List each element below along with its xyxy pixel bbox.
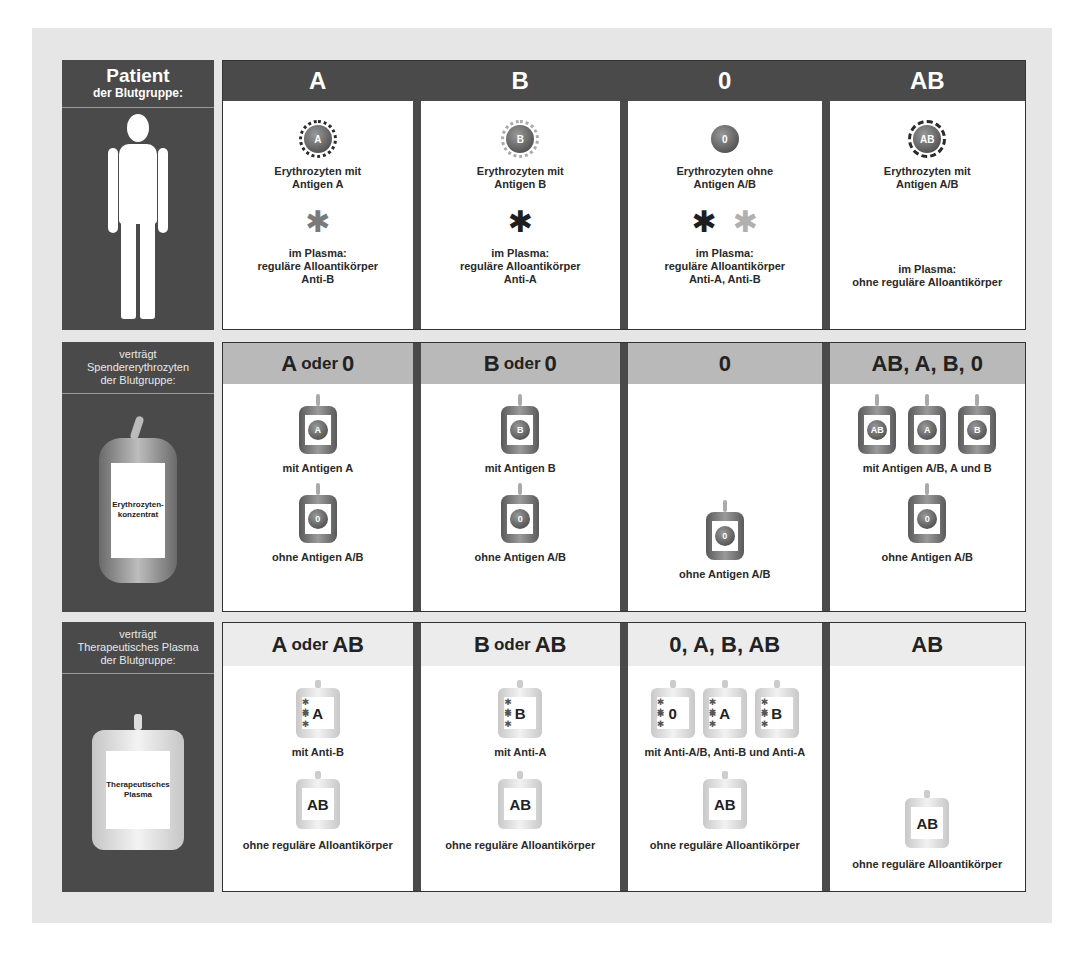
compatible-groups-header: AB, A, B, 0 (830, 343, 1026, 384)
antibody-anti-a-icon: ✱ (692, 207, 717, 237)
plasma-col-a: AoderAB A mit Anti-B AB ohne reguläre Al… (223, 623, 413, 891)
bag-label: ohne reguläre Alloantikörper (650, 839, 800, 852)
rbc-col-b: Boder0 B mit Antigen B 0 ohne Antigen A/… (413, 343, 620, 611)
plasma-col-ab: AB AB ohne reguläre Alloantikörper (822, 623, 1026, 891)
plasma-bag-a-icon: A (703, 688, 747, 738)
plasma-bag-0-icon: 0 (651, 688, 695, 738)
side-panel-plasma-header: verträgt Therapeutisches Plasma der Blut… (62, 622, 214, 674)
rbc-col-0: 0 0 ohne Antigen A/B (620, 343, 822, 611)
side-panel-patient-header: Patient der Blutgruppe: (62, 60, 214, 108)
compatible-groups-header: Aoder0 (223, 343, 413, 384)
side-panel-plasma: verträgt Therapeutisches Plasma der Blut… (62, 622, 214, 892)
plasma-compatibility-row: AoderAB A mit Anti-B AB ohne reguläre Al… (222, 622, 1026, 892)
plasma-bag-ab-icon: AB (498, 779, 542, 829)
cell-description: Erythrozyten mitAntigen A (274, 165, 361, 191)
rbc-bag-a-icon: A (908, 406, 946, 454)
bag-label-2: konzentrat (118, 510, 158, 519)
plasma-description: im Plasma:reguläre AlloantikörperAnti-B (257, 247, 378, 286)
plasma-col-b: BoderAB B mit Anti-A AB ohne reguläre Al… (413, 623, 620, 891)
patient-row: A A Erythrozyten mitAntigen A ✱ im Plasm… (222, 60, 1026, 330)
erythrocyte-concentrate-bag-icon: Erythrozyten-konzentrat (99, 438, 177, 583)
plasma-col-0: 0, A, B, AB 0 A B mit Anti-A/B, Anti-B u… (620, 623, 822, 891)
cell-description: Erythrozyten mitAntigen A/B (884, 165, 971, 191)
group-header: AB (830, 61, 1026, 101)
plasma-bag-ab-icon: AB (296, 779, 340, 829)
bag-label: mit Antigen A/B, A und B (863, 462, 992, 475)
side-panel-rbc-header: verträgt Spendererythrozyten der Blutgru… (62, 342, 214, 394)
compatible-groups-header: Boder0 (421, 343, 620, 384)
person-silhouette-icon (103, 114, 173, 324)
plasma-bag-ab-icon: AB (905, 798, 949, 848)
plasma-bag-ab-icon: AB (703, 779, 747, 829)
compatible-groups-header: 0 (628, 343, 822, 384)
antibody-anti-b-icon: ✱ (305, 207, 330, 237)
bag-label: mit Anti-A/B, Anti-B und Anti-A (644, 746, 805, 759)
antibody-anti-a-icon: ✱ (508, 207, 533, 237)
patient-col-0: 0 0 Erythrozyten ohneAntigen A/B ✱ ✱ im … (620, 61, 822, 329)
bag-label: mit Antigen A (282, 462, 353, 475)
bag-label: ohne Antigen A/B (679, 568, 770, 581)
compatible-groups-header: BoderAB (421, 623, 620, 666)
rbc-line-1: verträgt (62, 348, 214, 361)
group-header: A (223, 61, 413, 101)
plasma-description: im Plasma:ohne reguläre Alloantikörper (852, 263, 1002, 289)
group-header: 0 (628, 61, 822, 101)
patient-subtitle: der Blutgruppe: (62, 86, 214, 101)
erythrocyte-ab-icon: AB (913, 125, 941, 153)
erythrocyte-b-icon: B (506, 125, 534, 153)
patient-col-a: A A Erythrozyten mitAntigen A ✱ im Plasm… (223, 61, 413, 329)
cell-description: Erythrozyten ohneAntigen A/B (676, 165, 773, 191)
rbc-bag-b-icon: B (501, 406, 539, 454)
bag-label: ohne Antigen A/B (272, 551, 363, 564)
rbc-col-ab: AB, A, B, 0 AB A B mit Antigen A/B, A un… (822, 343, 1026, 611)
bag-label: ohne reguläre Alloantikörper (243, 839, 393, 852)
rbc-line-3: der Blutgruppe: (62, 374, 214, 387)
plasma-line-2: Therapeutisches Plasma (62, 641, 214, 654)
compatible-groups-header: AoderAB (223, 623, 413, 666)
rbc-compatibility-row: Aoder0 A mit Antigen A 0 ohne Antigen A/… (222, 342, 1026, 612)
bag-label: mit Anti-B (292, 746, 344, 759)
plasma-line-3: der Blutgruppe: (62, 654, 214, 667)
bag-label-1: Erythrozyten- (112, 500, 164, 509)
cell-description: Erythrozyten mitAntigen B (477, 165, 564, 191)
plasma-description: im Plasma:reguläre AlloantikörperAnti-A,… (664, 247, 785, 286)
patient-title: Patient (62, 66, 214, 86)
patient-col-b: B B Erythrozyten mitAntigen B ✱ im Plasm… (413, 61, 620, 329)
side-panel-rbc: verträgt Spendererythrozyten der Blutgru… (62, 342, 214, 612)
bag-label: ohne Antigen A/B (475, 551, 566, 564)
side-panel-patient: Patient der Blutgruppe: (62, 60, 214, 330)
rbc-bag-0-icon: 0 (299, 495, 337, 543)
rbc-bag-ab-icon: AB (858, 406, 896, 454)
bag-label: ohne Antigen A/B (882, 551, 973, 564)
bag-label: ohne reguläre Alloantikörper (445, 839, 595, 852)
compatible-groups-header: AB (830, 623, 1026, 666)
rbc-bag-0-icon: 0 (501, 495, 539, 543)
bag-label: mit Anti-A (494, 746, 546, 759)
group-header: B (421, 61, 620, 101)
patient-col-ab: AB AB Erythrozyten mitAntigen A/B im Pla… (822, 61, 1026, 329)
plasma-description: im Plasma:reguläre AlloantikörperAnti-A (460, 247, 581, 286)
rbc-col-a: Aoder0 A mit Antigen A 0 ohne Antigen A/… (223, 343, 413, 611)
erythrocyte-a-icon: A (304, 125, 332, 153)
compatible-groups-header: 0, A, B, AB (628, 623, 822, 666)
antibody-anti-b-icon: ✱ (733, 207, 758, 237)
plasma-bag-b-icon: B (498, 688, 542, 738)
therapeutic-plasma-bag-icon: TherapeutischesPlasma (92, 730, 184, 850)
rbc-bag-0-icon: 0 (706, 512, 744, 560)
plasma-bag-b-icon: B (755, 688, 799, 738)
pbag-label-1: Therapeutisches (106, 780, 170, 789)
plasma-line-1: verträgt (62, 628, 214, 641)
bag-label: mit Antigen B (485, 462, 556, 475)
rbc-bag-b-icon: B (958, 406, 996, 454)
rbc-line-2: Spendererythrozyten (62, 361, 214, 374)
bag-label: ohne reguläre Alloantikörper (852, 858, 1002, 871)
pbag-label-2: Plasma (124, 790, 152, 799)
plasma-bag-a-icon: A (296, 688, 340, 738)
erythrocyte-0-icon: 0 (711, 125, 739, 153)
rbc-bag-0-icon: 0 (908, 495, 946, 543)
rbc-bag-a-icon: A (299, 406, 337, 454)
